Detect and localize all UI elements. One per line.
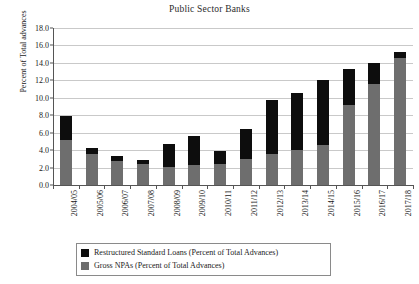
x-axis-labels: 2004/052005/062006/072007/082008/092009/…: [53, 190, 413, 236]
x-tick-mark: [284, 185, 285, 189]
y-tick-label: 14.0: [35, 58, 49, 67]
x-tick-label: 2015/16: [353, 190, 362, 216]
y-axis-label: Percent of Total advances: [19, 0, 28, 127]
bar-segment-restructured: [317, 80, 329, 145]
x-tick-mark: [387, 185, 388, 189]
bar-group: [60, 116, 72, 185]
bar-group: [163, 144, 175, 185]
x-tick-mark: [233, 185, 234, 189]
bar-segment-restructured: [266, 100, 278, 154]
x-tick-label: 2005/06: [96, 190, 105, 216]
x-tick-mark: [336, 185, 337, 189]
y-tick-label: 4.0: [39, 146, 49, 155]
y-tick-label: 2.0: [39, 163, 49, 172]
bar-group: [240, 129, 252, 185]
bar-segment-gross-npa: [343, 105, 355, 185]
legend-item-restructured: Restructured Standard Loans (Percent of …: [81, 246, 326, 259]
x-tick-label: 2017/18: [404, 190, 413, 216]
legend-label-gross-npa: Gross NPAs (Percent of Total Advances): [94, 261, 224, 270]
bar-segment-gross-npa: [266, 154, 278, 185]
bar-group: [111, 156, 123, 185]
bar-segment-gross-npa: [163, 167, 175, 185]
y-tick-label: 6.0: [39, 128, 49, 137]
bar-segment-gross-npa: [317, 145, 329, 185]
legend-item-gross-npa: Gross NPAs (Percent of Total Advances): [81, 259, 326, 272]
bar-segment-gross-npa: [111, 161, 123, 185]
x-tick-mark: [104, 185, 105, 189]
x-tick-mark: [53, 185, 54, 189]
y-tick-label: 10.0: [35, 93, 49, 102]
bar-group: [291, 93, 303, 185]
bar-segment-gross-npa: [86, 154, 98, 185]
bar-segment-gross-npa: [188, 165, 200, 185]
x-tick-mark: [207, 185, 208, 189]
bar-segment-gross-npa: [291, 150, 303, 185]
x-tick-mark: [79, 185, 80, 189]
bar-segment-restructured: [60, 116, 72, 140]
bar-group: [394, 52, 406, 185]
x-tick-label: 2006/07: [121, 190, 130, 216]
x-tick-label: 2004/05: [70, 190, 79, 216]
bar-group: [266, 100, 278, 185]
bar-series-container: [53, 28, 413, 185]
x-tick-mark: [259, 185, 260, 189]
x-tick-mark: [182, 185, 183, 189]
legend-swatch-icon-gross-npa: [81, 262, 89, 270]
bar-segment-gross-npa: [137, 164, 149, 185]
x-tick-mark: [310, 185, 311, 189]
bar-segment-restructured: [214, 151, 226, 164]
y-tick-label: 18.0: [35, 24, 49, 33]
x-tick-label: 2011/12: [250, 190, 259, 216]
x-tick-label: 2007/08: [147, 190, 156, 216]
x-tick-mark: [413, 185, 414, 189]
x-tick-label: 2013/14: [301, 190, 310, 216]
chart-figure: Public Sector Banks Percent of Total adv…: [0, 0, 419, 284]
plot-area: 0.02.04.06.08.010.012.014.016.018.0: [53, 28, 413, 185]
bar-group: [188, 136, 200, 185]
y-tick-label: 16.0: [35, 41, 49, 50]
bar-segment-restructured: [343, 69, 355, 105]
x-tick-label: 2016/17: [378, 190, 387, 216]
legend-label-restructured: Restructured Standard Loans (Percent of …: [94, 248, 278, 257]
bar-group: [368, 63, 380, 185]
y-tick-label: 0.0: [39, 181, 49, 190]
x-tick-mark: [130, 185, 131, 189]
x-tick-mark: [362, 185, 363, 189]
x-tick-label: 2008/09: [173, 190, 182, 216]
x-tick-mark: [156, 185, 157, 189]
bar-group: [317, 80, 329, 185]
bar-segment-restructured: [188, 136, 200, 165]
bar-segment-gross-npa: [60, 140, 72, 185]
bar-segment-restructured: [368, 63, 380, 84]
bar-segment-gross-npa: [394, 58, 406, 185]
bar-segment-gross-npa: [240, 159, 252, 185]
bar-segment-restructured: [291, 93, 303, 151]
x-tick-label: 2009/10: [198, 190, 207, 216]
chart-title: Public Sector Banks: [0, 4, 419, 14]
x-tick-label: 2010/11: [224, 190, 233, 216]
bar-group: [343, 69, 355, 185]
bar-segment-gross-npa: [214, 164, 226, 185]
bar-group: [214, 151, 226, 185]
bar-segment-gross-npa: [368, 84, 380, 185]
bar-segment-restructured: [240, 129, 252, 159]
y-tick-label: 12.0: [35, 76, 49, 85]
x-tick-label: 2012/13: [276, 190, 285, 216]
y-tick-label: 8.0: [39, 111, 49, 120]
x-tick-label: 2014/15: [327, 190, 336, 216]
bar-segment-restructured: [163, 144, 175, 167]
chart-legend: Restructured Standard Loans (Percent of …: [76, 243, 331, 276]
legend-swatch-icon-restructured: [81, 249, 89, 257]
bar-group: [137, 160, 149, 185]
bar-group: [86, 148, 98, 185]
